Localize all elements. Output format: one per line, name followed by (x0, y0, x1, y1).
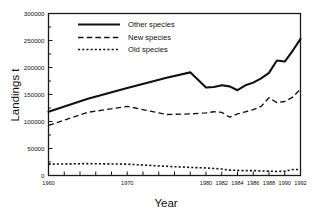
y-tick-label: 150000 (24, 91, 45, 98)
x-tick-label: 1990 (279, 180, 291, 186)
plot-frame (49, 14, 301, 176)
y-tick-label: 0 (41, 172, 45, 179)
legend-label-old-species: Old species (128, 45, 168, 54)
y-tick-label: 50000 (27, 145, 45, 152)
series-line-other-species (49, 39, 301, 112)
y-tick-label: 250000 (24, 37, 45, 44)
x-tick-label: 1992 (294, 180, 306, 186)
y-axis-tick-labels: 050000100000150000200000250000300000 (24, 10, 45, 179)
x-tick-label: 1988 (263, 180, 275, 186)
chart-figure: 050000100000150000200000250000300000 196… (0, 0, 316, 218)
legend-label-new-species: New species (128, 33, 171, 42)
chart-legend: Other species New species Old species (78, 20, 175, 54)
y-axis-title: Landings t (9, 68, 21, 122)
legend-label-other-species: Other species (128, 20, 175, 29)
y-tick-label: 100000 (24, 118, 45, 125)
series-line-old-species (49, 164, 301, 172)
x-axis-title: Year (154, 197, 177, 209)
x-tick-label: 1986 (247, 180, 259, 186)
x-tick-label: 1960 (42, 180, 54, 186)
x-tick-label: 1982 (216, 180, 228, 186)
x-axis-tick-labels: 196019701980198219841986198819901992 (42, 180, 306, 186)
series-line-new-species (49, 89, 301, 125)
x-tick-label: 1984 (231, 180, 243, 186)
line-chart: 050000100000150000200000250000300000 196… (0, 0, 316, 218)
x-tick-label: 1970 (121, 180, 133, 186)
y-tick-label: 200000 (24, 64, 45, 71)
x-tick-label: 1980 (200, 180, 212, 186)
y-tick-label: 300000 (24, 10, 45, 17)
